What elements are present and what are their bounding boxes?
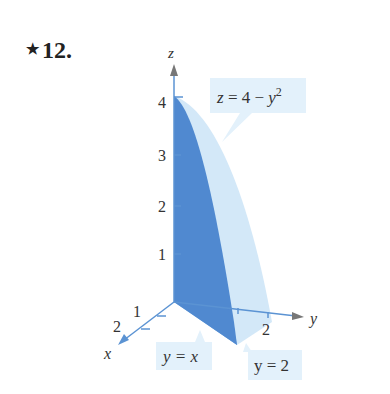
plane-diag-callout-pointer [195, 330, 205, 342]
x-tick-1: 1 [133, 303, 141, 320]
surface-equation: z = 4 − y2 [216, 85, 282, 107]
z-axis-label: z [167, 45, 174, 61]
y-tick-2: 2 [262, 321, 270, 338]
z-tick-3: 3 [158, 147, 166, 164]
x-tick-2: 2 [113, 318, 121, 335]
z-tick-2: 2 [158, 198, 166, 215]
surface-callout-pointer [222, 113, 252, 142]
z-tick-1: 1 [158, 246, 166, 263]
y-axis-label: y [308, 310, 318, 328]
x-axis [124, 302, 174, 340]
x-axis-arrow-icon [118, 334, 129, 345]
plane-diag-label: y = x [161, 347, 199, 366]
z-tick-4: 4 [158, 94, 166, 111]
z-axis-arrow-icon [170, 64, 178, 76]
solid-region-diagram: 1 2 3 4 1 2 2 z y x z = 4 − y2 y = x y =… [0, 0, 390, 394]
y-axis-arrow-icon [292, 312, 304, 320]
x-axis-label: x [103, 345, 111, 362]
plane-y2-label: y = 2 [254, 356, 289, 375]
